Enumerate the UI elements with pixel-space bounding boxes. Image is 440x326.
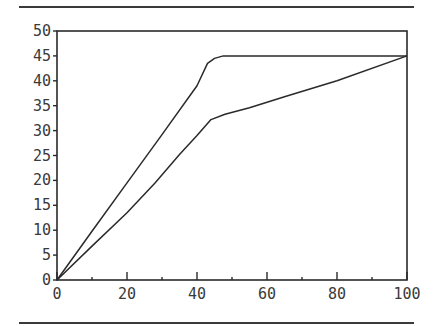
y-tick-label: 45	[33, 47, 51, 65]
y-tick-label: 25	[33, 147, 51, 165]
y-tick-label: 5	[42, 246, 51, 264]
y-tick-label: 10	[33, 221, 51, 239]
x-tick-label: 40	[188, 285, 206, 303]
line-chart: 05101520253035404550020406080100	[0, 0, 440, 326]
series-line-upper	[57, 56, 407, 280]
x-tick-label: 20	[118, 285, 136, 303]
x-tick-label: 0	[52, 285, 61, 303]
series-line-lower	[57, 56, 407, 280]
y-tick-label: 50	[33, 22, 51, 40]
y-tick-label: 15	[33, 196, 51, 214]
x-tick-label: 80	[328, 285, 346, 303]
y-tick-label: 40	[33, 72, 51, 90]
y-tick-label: 0	[42, 271, 51, 289]
y-tick-label: 35	[33, 97, 51, 115]
y-tick-label: 30	[33, 122, 51, 140]
plot-frame	[57, 31, 407, 280]
x-tick-label: 60	[258, 285, 276, 303]
x-tick-label: 100	[393, 285, 420, 303]
y-tick-label: 20	[33, 171, 51, 189]
